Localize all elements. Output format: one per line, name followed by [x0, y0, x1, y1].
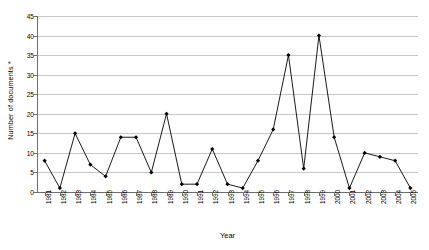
data-series — [37, 16, 418, 192]
y-tickmark — [33, 55, 37, 56]
x-tickmark — [319, 193, 320, 196]
y-tickmark — [33, 172, 37, 173]
data-point — [195, 182, 199, 186]
x-tickmark — [121, 193, 122, 196]
x-tickmark — [380, 193, 381, 196]
data-point — [378, 155, 382, 159]
x-tickmark — [151, 193, 152, 196]
x-axis-tick-labels: 1981198219831984198519861987198819891990… — [37, 197, 418, 225]
y-tickmark — [33, 133, 37, 134]
data-point — [210, 147, 214, 151]
x-tickmark — [106, 193, 107, 196]
y-tickmark — [33, 192, 37, 193]
x-tick-label: 1994 — [243, 190, 250, 204]
x-tick-label: 1989 — [167, 190, 174, 204]
x-tick-label: 1992 — [212, 190, 219, 204]
data-point — [119, 135, 123, 139]
x-tickmark — [228, 193, 229, 196]
data-point — [332, 135, 336, 139]
x-tick-label: 1981 — [45, 190, 52, 204]
x-tick-label: 1991 — [197, 190, 204, 204]
data-point — [302, 166, 306, 170]
x-tick-label: 1990 — [182, 190, 189, 204]
x-tick-label: 1993 — [228, 190, 235, 204]
x-tickmark — [273, 193, 274, 196]
y-tickmark — [33, 114, 37, 115]
x-tick-label: 1996 — [273, 190, 280, 204]
x-tickmark — [395, 193, 396, 196]
x-tickmark — [90, 193, 91, 196]
x-tickmark — [75, 193, 76, 196]
data-point — [271, 127, 275, 131]
y-tickmark — [33, 75, 37, 76]
x-tickmark — [365, 193, 366, 196]
x-tick-label: 1983 — [75, 190, 82, 204]
data-point — [363, 151, 367, 155]
x-tick-label: 2005 — [410, 190, 417, 204]
x-tick-label: 2000 — [334, 190, 341, 204]
x-tick-label: 2003 — [380, 190, 387, 204]
y-tickmark — [33, 153, 37, 154]
x-tickmark — [304, 193, 305, 196]
y-axis-title-label: Number of documents * — [6, 61, 15, 140]
x-tickmark — [349, 193, 350, 196]
x-tick-label: 1982 — [60, 190, 67, 204]
data-point — [317, 33, 321, 37]
x-tick-label: 1985 — [106, 190, 113, 204]
line-chart: Number of documents * 051015202530354045… — [0, 0, 429, 250]
data-point — [73, 131, 77, 135]
x-tick-label: 1998 — [304, 190, 311, 204]
x-tickmark — [60, 193, 61, 196]
x-tickmark — [258, 193, 259, 196]
data-point — [256, 159, 260, 163]
y-axis-tick-labels: 051015202530354045 — [18, 0, 36, 200]
data-point — [225, 182, 229, 186]
data-point — [43, 159, 47, 163]
data-point — [286, 53, 290, 57]
x-axis-title: Year — [37, 231, 418, 240]
x-tickmark — [288, 193, 289, 196]
x-tickmark — [410, 193, 411, 196]
x-tickmark — [212, 193, 213, 196]
x-tick-label: 2002 — [365, 190, 372, 204]
x-tick-label: 2001 — [349, 190, 356, 204]
data-point — [164, 112, 168, 116]
series-line — [45, 36, 411, 189]
x-tick-label: 1988 — [151, 190, 158, 204]
data-point — [134, 135, 138, 139]
y-tickmark — [33, 94, 37, 95]
y-tickmark — [33, 16, 37, 17]
x-tick-label: 1984 — [90, 190, 97, 204]
x-tickmark — [45, 193, 46, 196]
data-point — [149, 170, 153, 174]
x-tickmark — [334, 193, 335, 196]
x-tick-label: 1986 — [121, 190, 128, 204]
x-tickmark — [136, 193, 137, 196]
x-tickmark — [167, 193, 168, 196]
data-point — [180, 182, 184, 186]
x-tick-label: 2004 — [395, 190, 402, 204]
x-tick-label: 1987 — [136, 190, 143, 204]
x-tickmark — [243, 193, 244, 196]
y-axis-title: Number of documents * — [0, 0, 20, 200]
x-tickmark — [182, 193, 183, 196]
x-tickmark — [197, 193, 198, 196]
x-tick-label: 1999 — [319, 190, 326, 204]
y-tickmark — [33, 36, 37, 37]
data-point — [393, 159, 397, 163]
x-tick-label: 1995 — [258, 190, 265, 204]
x-tick-label: 1997 — [288, 190, 295, 204]
